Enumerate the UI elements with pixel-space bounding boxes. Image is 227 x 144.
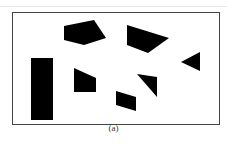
trapezoid-obstacle [74,68,96,92]
parallelogram-obstacle [116,91,136,111]
quad-obstacle-top [127,25,169,53]
pentagon-obstacle [64,20,106,45]
triangle-obstacle-center [137,74,157,97]
rectangle-obstacle [31,58,53,120]
figure-caption: (a) [0,123,227,133]
triangle-obstacle-right [181,52,200,71]
obstacles-group [31,20,200,120]
